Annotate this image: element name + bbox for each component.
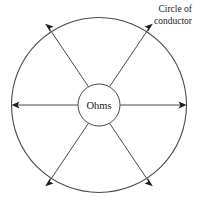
spoke-upper-right-line bbox=[110, 27, 151, 87]
diagram-canvas: Ohms Circle of conductor bbox=[0, 0, 199, 201]
spoke-lower-left bbox=[45, 123, 88, 186]
spoke-upper-right bbox=[110, 24, 153, 87]
spoke-lower-right-line bbox=[110, 123, 151, 183]
spoke-lower-left-line bbox=[48, 123, 89, 183]
conductor-label-line2: conductor bbox=[154, 16, 193, 26]
spoke-upper-left-line bbox=[48, 27, 89, 87]
ohms-circle-diagram: Ohms Circle of conductor bbox=[0, 0, 199, 201]
conductor-label-line1: Circle of bbox=[158, 4, 192, 14]
ohms-label: Ohms bbox=[86, 100, 111, 111]
spoke-lower-right bbox=[110, 123, 153, 186]
spoke-right bbox=[120, 102, 187, 109]
spoke-upper-left bbox=[45, 24, 88, 87]
spoke-left bbox=[12, 102, 79, 109]
